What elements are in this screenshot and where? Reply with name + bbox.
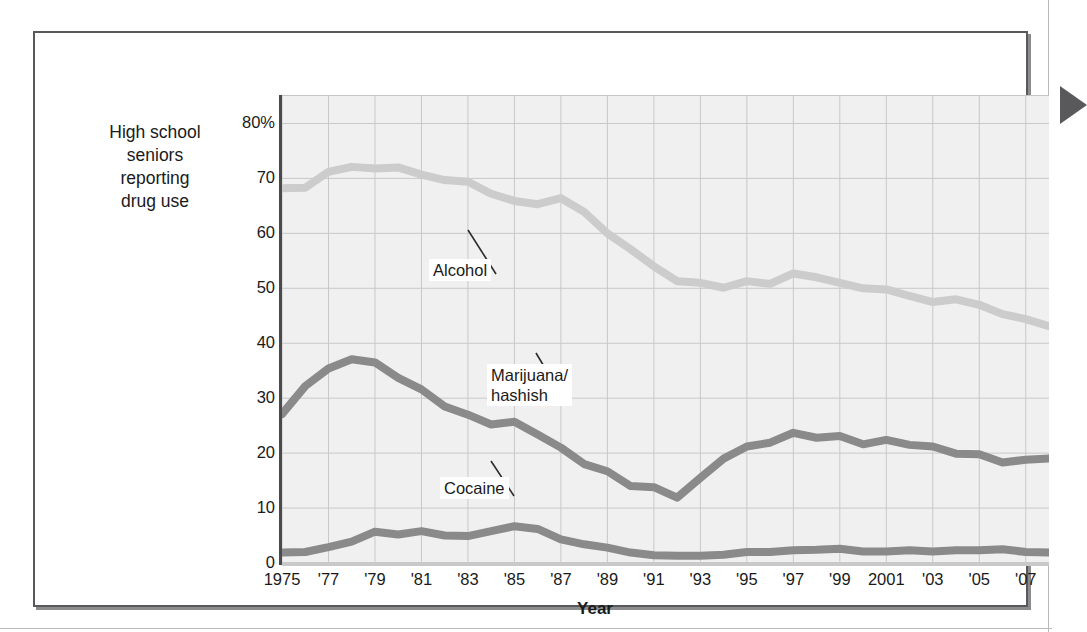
series-line-cocaine (282, 526, 1049, 556)
x-tick-label: 1975 (264, 570, 301, 589)
y-tick-label: 80% (215, 113, 275, 132)
x-tick-label: '05 (969, 570, 991, 589)
x-tick-label: '85 (504, 570, 526, 589)
x-tick-label: '79 (364, 570, 386, 589)
y-tick-label: 20 (215, 443, 275, 462)
x-tick-label: 2001 (868, 570, 905, 589)
figure-frame: High school seniors reporting drug use 8… (33, 31, 1028, 607)
series-label-alcohol: Alcohol (429, 259, 491, 281)
x-tick-label: '89 (597, 570, 619, 589)
y-axis-tick-labels: 80%706050403020100 (215, 33, 275, 632)
series-line-marijuana-hashish (282, 359, 1049, 497)
series-label-marijuana: Marijuana/ hashish (487, 364, 572, 406)
x-axis-title: Year (535, 599, 655, 619)
plot-area (282, 96, 1049, 563)
series-lines (282, 167, 1049, 556)
y-tick-label: 70 (215, 168, 275, 187)
y-tick-label: 50 (215, 278, 275, 297)
series-label-cocaine: Cocaine (440, 477, 509, 499)
chart-svg (282, 96, 1049, 563)
x-tick-label: '99 (829, 570, 851, 589)
y-tick-label: 60 (215, 223, 275, 242)
x-tick-label: '07 (1015, 570, 1037, 589)
x-tick-label: '95 (736, 570, 758, 589)
x-tick-label: '77 (318, 570, 340, 589)
y-tick-label: 40 (215, 333, 275, 352)
series-line-alcohol (282, 167, 1049, 326)
page-edge-rule-bottom (0, 628, 1052, 629)
x-tick-label: '87 (550, 570, 572, 589)
y-tick-label: 30 (215, 388, 275, 407)
x-axis-spine (282, 562, 1049, 566)
x-tick-label: '91 (643, 570, 665, 589)
x-tick-label: '83 (457, 570, 479, 589)
x-axis-tick-labels: 1975'77'79'81'83'85'87'89'91'93'95'97'99… (35, 570, 1087, 596)
x-tick-label: '03 (922, 570, 944, 589)
x-tick-label: '93 (690, 570, 712, 589)
y-axis-title: High school seniors reporting drug use (80, 121, 230, 213)
x-tick-label: '97 (783, 570, 805, 589)
x-tick-label: '81 (411, 570, 433, 589)
triangle-right-icon (1060, 86, 1087, 124)
y-tick-label: 10 (215, 498, 275, 517)
